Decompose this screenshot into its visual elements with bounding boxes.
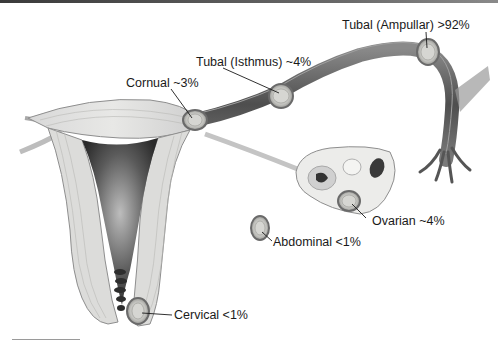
label-cervical: Cervical <1% bbox=[174, 308, 248, 322]
label-ovarian: Ovarian ~4% bbox=[372, 214, 445, 228]
sac-ovarian bbox=[338, 191, 360, 211]
anatomy-illustration bbox=[0, 0, 498, 341]
label-tubal-isthmus: Tubal (Isthmus) ~4% bbox=[196, 55, 311, 69]
bottom-rule bbox=[12, 339, 80, 340]
label-abdominal: Abdominal <1% bbox=[273, 235, 361, 249]
label-tubal-ampullar: Tubal (Ampullar) >92% bbox=[342, 18, 470, 32]
sac-cervical bbox=[127, 298, 149, 324]
follicle-2 bbox=[343, 159, 361, 175]
sac-isthmus bbox=[269, 84, 293, 108]
sac-cornual bbox=[183, 110, 207, 130]
ovarian-ligament bbox=[205, 134, 300, 170]
label-cornual: Cornual ~3% bbox=[126, 76, 199, 90]
sac-ampullar bbox=[417, 39, 439, 65]
suspensory-ligament bbox=[455, 66, 490, 112]
